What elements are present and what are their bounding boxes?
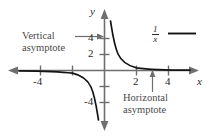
legend-numerator: 1 [152, 25, 159, 34]
x-tick-label--4: -4 [33, 75, 42, 87]
y-tick-label-4: 4 [88, 31, 94, 43]
vertical-asymptote-annotation: Vertical asymptote [22, 30, 65, 54]
x-tick-label-2: 2 [133, 75, 139, 87]
vertical-asymptote-line2: asymptote [22, 42, 65, 54]
x-axis-label: x [197, 75, 202, 87]
legend-entry-one-over-x: 1 x [152, 25, 159, 44]
horizontal-asymptote-annotation: Horizontal asymptote [123, 92, 168, 116]
curve-positive-branch [111, 21, 191, 70]
graph-canvas [0, 0, 217, 136]
y-axis-label: y [90, 5, 95, 17]
function-graph-figure: y x 4 2 -4 -4 2 4 Vertical asymptote Hor… [0, 0, 217, 136]
y-tick-label-2: 2 [88, 47, 94, 59]
legend-denominator: x [152, 34, 159, 44]
horizontal-asymptote-leader [150, 70, 156, 93]
y-tick-label--4: -4 [84, 95, 93, 107]
vertical-asymptote-line1: Vertical [22, 30, 55, 41]
horizontal-asymptote-line2: asymptote [123, 104, 168, 116]
x-tick-label-4: 4 [165, 75, 171, 87]
horizontal-asymptote-line1: Horizontal [123, 92, 168, 103]
